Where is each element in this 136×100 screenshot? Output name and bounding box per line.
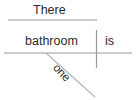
sentence-diagram: There bathroom is one [0,0,136,100]
word-bathroom: bathroom [25,35,78,48]
word-is: is [105,35,114,48]
word-there: There [33,4,66,17]
diagram-lines [0,0,136,100]
